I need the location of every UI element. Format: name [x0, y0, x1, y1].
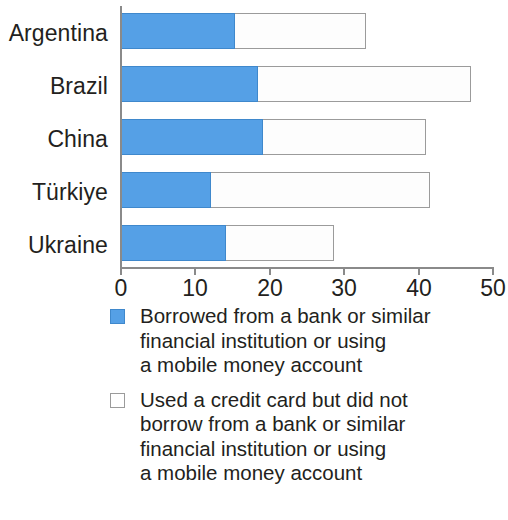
- x-axis-tick-label: 0: [91, 277, 151, 300]
- plot-area: Argentina Brazil China Türkiye Ukraine: [0, 0, 508, 292]
- x-axis-tick: [418, 267, 420, 275]
- legend-swatch-blue-square-icon: [110, 309, 125, 324]
- bar-segment-borrowed: [121, 119, 263, 155]
- legend-item-borrowed: Borrowed from a bank or similar financia…: [110, 304, 508, 378]
- bar-segment-credit-card: [235, 13, 366, 49]
- bar-segment-borrowed: [121, 13, 235, 49]
- legend-label-borrowed: Borrowed from a bank or similar financia…: [140, 304, 508, 378]
- x-axis-tick: [120, 267, 122, 275]
- category-label-brazil: Brazil: [0, 75, 108, 98]
- category-label-turkiye: Türkiye: [0, 181, 108, 204]
- x-axis-line: [120, 267, 494, 269]
- bar-segment-credit-card: [258, 66, 471, 102]
- category-label-argentina: Argentina: [0, 22, 108, 45]
- x-axis-tick: [269, 267, 271, 275]
- legend-swatch-white-square-icon: [110, 393, 125, 408]
- bar-segment-borrowed: [121, 225, 226, 261]
- x-axis-tick: [343, 267, 345, 275]
- x-axis-tick-label: 30: [314, 277, 374, 300]
- bar-segment-credit-card: [263, 119, 426, 155]
- category-label-ukraine: Ukraine: [0, 234, 108, 257]
- x-axis-tick-label: 10: [165, 277, 225, 300]
- x-axis-tick-label: 20: [240, 277, 300, 300]
- category-label-china: China: [0, 128, 108, 151]
- legend-item-credit-card: Used a credit card but did not borrow fr…: [110, 388, 508, 486]
- legend-label-credit-card: Used a credit card but did not borrow fr…: [140, 388, 508, 486]
- bar-segment-credit-card: [211, 172, 430, 208]
- bar-segment-borrowed: [121, 66, 258, 102]
- x-axis-tick-label: 50: [463, 277, 508, 300]
- x-axis-tick: [492, 267, 494, 275]
- stacked-bar-chart: Argentina Brazil China Türkiye Ukraine: [0, 0, 508, 520]
- y-axis-line: [120, 6, 122, 268]
- x-axis-tick: [194, 267, 196, 275]
- bar-segment-credit-card: [226, 225, 333, 261]
- x-axis-tick-label: 40: [389, 277, 449, 300]
- bar-segment-borrowed: [121, 172, 211, 208]
- chart-legend: Borrowed from a bank or similar financia…: [110, 304, 508, 496]
